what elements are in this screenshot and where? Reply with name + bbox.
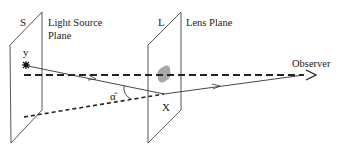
deflection-angle-label: α̂ <box>110 90 118 102</box>
lens-plane-letter: L <box>158 16 165 28</box>
apparent-direction-dotted-line <box>24 94 164 117</box>
image-position-label: X <box>162 101 170 113</box>
source-plane-label-line2: Plane <box>48 30 72 41</box>
source-plane-label-line1: Light Source <box>48 17 103 28</box>
light-source-star-icon <box>22 61 30 69</box>
lensing-diagram: S Light Source Plane L Lens Plane Observ… <box>0 0 342 152</box>
observer-label: Observer <box>292 58 331 69</box>
light-ray-segment-1 <box>28 66 164 94</box>
observer-arrowhead-icon <box>306 70 316 80</box>
source-plane-letter: S <box>20 16 26 28</box>
source-plane <box>10 12 42 143</box>
source-position-label: y <box>23 46 29 58</box>
lens-plane-label: Lens Plane <box>186 17 233 28</box>
light-ray-segment-2 <box>164 75 304 94</box>
deflection-angle-arc <box>124 86 131 99</box>
